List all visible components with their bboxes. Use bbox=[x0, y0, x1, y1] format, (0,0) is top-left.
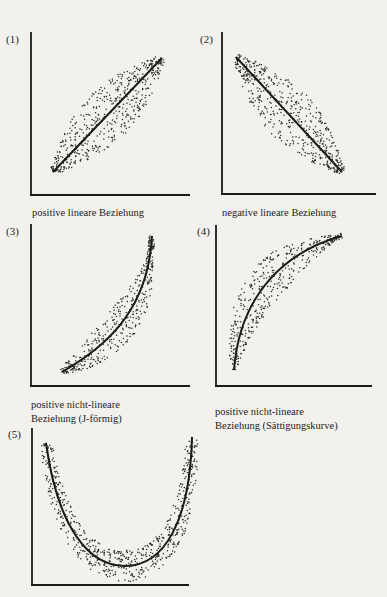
chart-3-caption-line2: Beziehung (J-förmig) bbox=[31, 412, 122, 426]
chart-5-number: (5) bbox=[8, 428, 21, 440]
chart-3-number: (3) bbox=[6, 225, 19, 237]
chart-4-caption-line2: Beziehung (Sättigungskurve) bbox=[215, 419, 338, 433]
chart-2-axes bbox=[221, 32, 376, 194]
chart-3-axes bbox=[30, 224, 190, 386]
chart-1-caption: positive lineare Beziehung bbox=[32, 206, 144, 220]
chart-2-caption: negative lineare Beziehung bbox=[222, 206, 336, 220]
chart-4-number: (4) bbox=[197, 225, 210, 237]
chart-1-number: (1) bbox=[6, 33, 19, 45]
chart-2-trend-line bbox=[236, 57, 342, 172]
figure-canvas bbox=[0, 0, 387, 597]
chart-4-trend-curve bbox=[234, 236, 342, 370]
chart-4-caption-line1: positive nicht-lineare bbox=[215, 405, 304, 419]
chart-3-trend-curve bbox=[62, 236, 152, 372]
chart-1-trend-line bbox=[53, 58, 162, 172]
chart-2-number: (2) bbox=[200, 33, 213, 45]
chart-3-caption-line1: positive nicht-lineare bbox=[31, 398, 120, 412]
scatter-dots bbox=[41, 54, 345, 582]
